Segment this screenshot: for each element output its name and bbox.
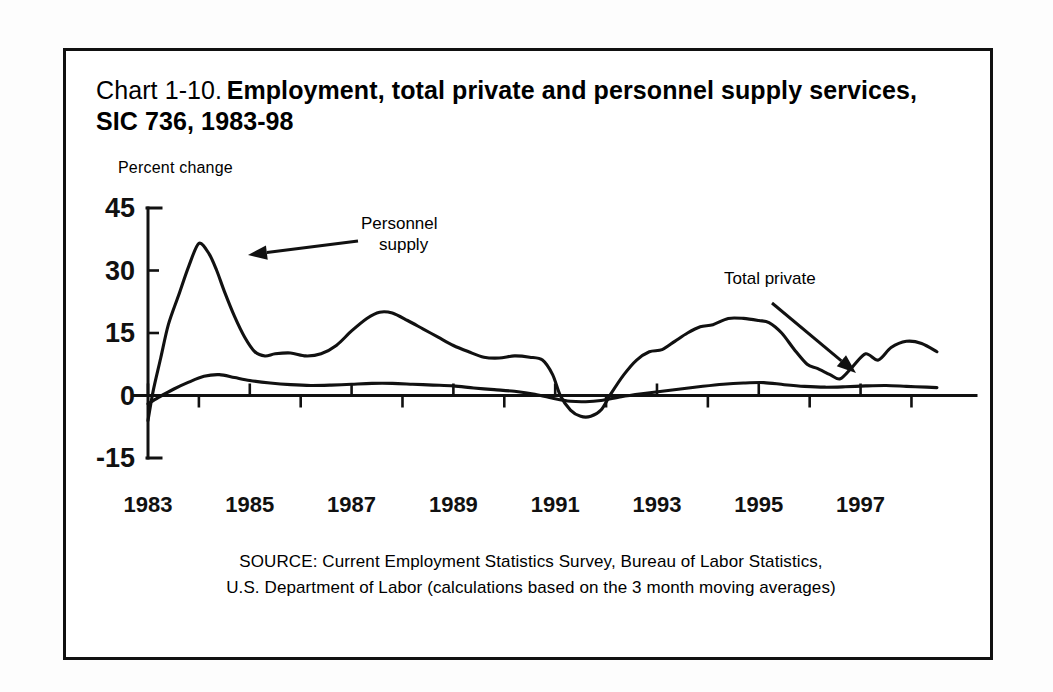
source-note: SOURCE: Current Employment Statistics Su… bbox=[66, 549, 996, 602]
y-tick-label: -15 bbox=[96, 443, 135, 473]
personnel-supply-arrow bbox=[248, 241, 358, 260]
series-line-total-private bbox=[148, 375, 937, 404]
scanned-page: Chart 1-10. Employment, total private an… bbox=[0, 0, 1053, 692]
annotation-personnel-supply-line1: Personnel bbox=[361, 213, 438, 234]
data-series-group bbox=[148, 243, 937, 420]
x-tick-label: 1997 bbox=[836, 492, 885, 517]
x-tick-label: 1983 bbox=[124, 492, 173, 517]
annotation-arrows bbox=[248, 241, 856, 373]
x-tick-label: 1993 bbox=[632, 492, 681, 517]
y-axis-ticks: 4530150-15 bbox=[96, 193, 159, 473]
x-tick-label: 1987 bbox=[327, 492, 376, 517]
annotation-personnel-supply-line2: supply bbox=[379, 234, 438, 255]
x-tick-label: 1989 bbox=[429, 492, 478, 517]
annotation-total-private: Total private bbox=[724, 269, 816, 289]
chart-frame: Chart 1-10. Employment, total private an… bbox=[63, 48, 993, 660]
source-note-line2: U.S. Department of Labor (calculations b… bbox=[66, 575, 996, 601]
x-tick-label: 1985 bbox=[225, 492, 274, 517]
y-tick-label: 15 bbox=[105, 318, 135, 348]
source-note-line1: SOURCE: Current Employment Statistics Su… bbox=[66, 549, 996, 575]
x-axis-tick-labels: 19831985198719891991199319951997 bbox=[124, 492, 886, 517]
x-tick-label: 1991 bbox=[531, 492, 580, 517]
y-tick-label: 45 bbox=[105, 193, 135, 223]
y-tick-label: 30 bbox=[105, 256, 135, 286]
annotation-personnel-supply: Personnel supply bbox=[361, 213, 438, 256]
x-tick-label: 1995 bbox=[734, 492, 783, 517]
series-line-personnel-supply bbox=[148, 243, 937, 420]
